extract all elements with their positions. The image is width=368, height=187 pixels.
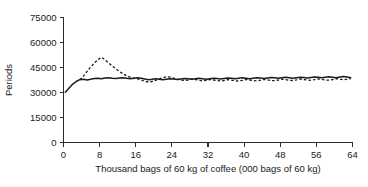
x-tick-group: 0816243240485664 — [61, 143, 358, 160]
y-tick-label: 45000 — [30, 62, 56, 73]
x-axis: 0816243240485664 — [61, 143, 358, 160]
y-tick-label: 75000 — [30, 12, 56, 23]
x-tick-label: 32 — [203, 149, 214, 160]
x-tick-label: 56 — [311, 149, 322, 160]
y-tick-label: 15000 — [30, 112, 56, 123]
line-chart: 01500030000450006000075000 0816243240485… — [0, 0, 368, 187]
y-tick-label: 30000 — [30, 87, 56, 98]
y-tick-label: 60000 — [30, 37, 56, 48]
x-tick-label: 40 — [239, 149, 250, 160]
x-axis-title: Thousand bags of 60 kg of coffee (000 ba… — [95, 163, 320, 174]
x-tick-label: 48 — [275, 149, 286, 160]
x-tick-label: 0 — [61, 149, 66, 160]
y-tick-label: 0 — [51, 137, 56, 148]
series-line-solid-series — [65, 77, 350, 93]
y-tick-group: 01500030000450006000075000 — [30, 12, 63, 148]
x-tick-label: 8 — [97, 149, 102, 160]
y-axis: 01500030000450006000075000 — [30, 12, 63, 148]
y-axis-title: Periods — [3, 64, 14, 96]
chart-container: 01500030000450006000075000 0816243240485… — [0, 0, 368, 187]
x-tick-label: 16 — [130, 149, 141, 160]
series-group — [65, 57, 350, 92]
x-tick-label: 64 — [347, 149, 358, 160]
x-tick-label: 24 — [167, 149, 178, 160]
